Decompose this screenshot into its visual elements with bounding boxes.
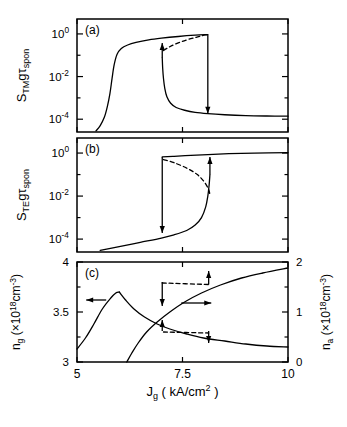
- yticklabel-left-c-1: 3.5: [53, 306, 69, 318]
- yticklabel-right-c-0: 0: [296, 356, 302, 368]
- yticklabel-right-c-1: 1: [296, 306, 302, 318]
- panel-label-a: (a): [85, 23, 100, 37]
- figure-background: [0, 0, 347, 427]
- figure-container: (a)10010-210-4 (b)10010-210-4 33.5401257…: [0, 0, 347, 427]
- scientific-figure: (a)10010-210-4 (b)10010-210-4 33.5401257…: [0, 0, 347, 427]
- panel-label-c: (c): [85, 266, 99, 280]
- yticklabel-left-c-0: 3: [63, 356, 69, 368]
- xticklabel-c-1: 7.5: [174, 367, 191, 381]
- yticklabel-left-c-2: 4: [63, 256, 70, 268]
- xticklabel-c-2: 10: [281, 367, 295, 381]
- panel-label-b: (b): [85, 142, 100, 156]
- xticklabel-c-0: 5: [74, 367, 81, 381]
- yticklabel-right-c-2: 2: [296, 256, 302, 268]
